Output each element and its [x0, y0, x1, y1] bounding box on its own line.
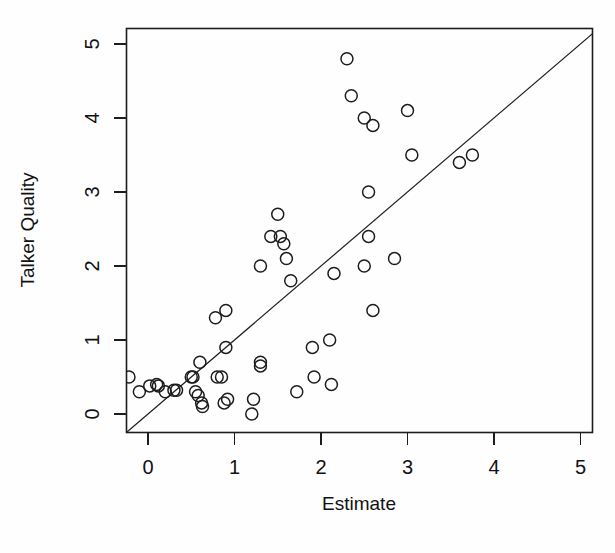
data-point: [363, 186, 375, 198]
data-point: [209, 312, 221, 324]
data-point: [278, 238, 290, 250]
y-tick-label: 4: [81, 112, 103, 123]
data-point: [246, 408, 258, 420]
data-points-group: [123, 53, 478, 420]
data-point: [367, 119, 379, 131]
scatter-plot-canvas: 012345 012345 Estimate Talker Quality: [0, 0, 615, 553]
data-point: [328, 267, 340, 279]
data-point: [324, 334, 336, 346]
data-point: [194, 356, 206, 368]
data-point: [341, 53, 353, 65]
data-point: [190, 386, 202, 398]
data-point: [220, 304, 232, 316]
data-point: [363, 230, 375, 242]
data-point: [306, 341, 318, 353]
y-tick-label: 2: [81, 260, 103, 271]
data-point: [222, 393, 234, 405]
data-point: [402, 105, 414, 117]
figure-container: 012345 012345 Estimate Talker Quality: [0, 0, 615, 553]
data-point: [218, 397, 230, 409]
y-tick-label: 0: [81, 408, 103, 419]
data-point: [453, 156, 465, 168]
x-axis-title: Estimate: [322, 493, 396, 514]
x-axis: 012345: [142, 433, 586, 478]
y-axis: 012345: [81, 38, 126, 419]
x-tick-label: 1: [229, 456, 240, 478]
data-point: [192, 390, 204, 402]
data-point: [291, 386, 303, 398]
data-point: [285, 275, 297, 287]
data-point: [254, 260, 266, 272]
data-point: [345, 90, 357, 102]
data-point: [389, 253, 401, 265]
y-tick-label: 3: [81, 186, 103, 197]
data-point: [168, 384, 180, 396]
data-point: [123, 371, 135, 383]
data-point: [308, 371, 320, 383]
data-point: [280, 253, 292, 265]
x-tick-label: 0: [142, 456, 153, 478]
data-point: [248, 393, 260, 405]
data-point: [406, 149, 418, 161]
y-tick-label: 1: [81, 334, 103, 345]
x-tick-label: 5: [575, 456, 586, 478]
data-point: [466, 149, 478, 161]
x-tick-label: 4: [488, 456, 499, 478]
x-tick-label: 3: [402, 456, 413, 478]
x-tick-label: 2: [315, 456, 326, 478]
data-point: [367, 304, 379, 316]
y-axis-title: Talker Quality: [17, 172, 38, 288]
data-point: [325, 378, 337, 390]
y-tick-label: 5: [81, 38, 103, 49]
data-point: [358, 260, 370, 272]
data-point: [272, 208, 284, 220]
